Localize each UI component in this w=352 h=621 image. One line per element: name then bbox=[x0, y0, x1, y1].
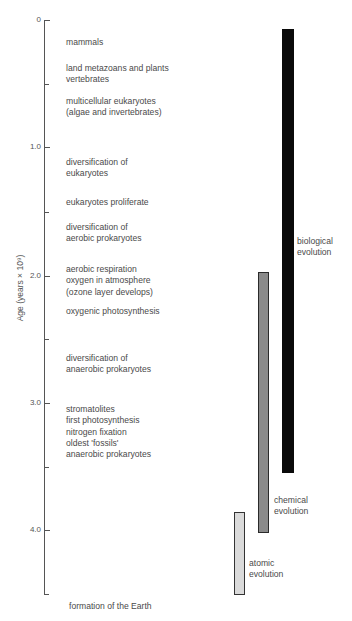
event-label: oxygenic photosynthesis bbox=[66, 306, 160, 317]
biological-evolution-bar bbox=[282, 29, 294, 473]
atomic-evolution-bar bbox=[234, 512, 245, 595]
minor-tick bbox=[44, 467, 49, 468]
tick-4 bbox=[44, 530, 50, 531]
tick-label-1: 1.0 bbox=[11, 142, 41, 151]
atomic-evolution-label: atomic evolution bbox=[249, 558, 283, 581]
y-axis-label: Age (years × 10⁹) bbox=[15, 238, 25, 338]
tick-2 bbox=[44, 276, 50, 277]
y-axis-line bbox=[44, 20, 45, 594]
event-label: aerobic respiration oxygen in atmosphere… bbox=[66, 264, 153, 298]
tick-label-4: 4.0 bbox=[11, 525, 41, 534]
event-label: mammals bbox=[66, 37, 103, 48]
tick-label-0: 0 bbox=[11, 15, 41, 24]
tick-1 bbox=[44, 147, 50, 148]
minor-tick bbox=[44, 212, 49, 213]
event-label: diversification of eukaryotes bbox=[66, 157, 128, 180]
event-label: diversification of anaerobic prokaryotes bbox=[66, 353, 151, 376]
event-label: diversification of aerobic prokaryotes bbox=[66, 222, 141, 245]
biological-evolution-label: biological evolution bbox=[297, 236, 333, 259]
event-label: multicellular eukaryotes (algae and inve… bbox=[66, 96, 162, 119]
event-label: land metazoans and plants vertebrates bbox=[66, 63, 169, 86]
tick-0 bbox=[44, 20, 50, 21]
minor-tick bbox=[44, 594, 49, 595]
tick-3 bbox=[44, 403, 50, 404]
chemical-evolution-label: chemical evolution bbox=[274, 495, 308, 518]
minor-tick bbox=[44, 84, 49, 85]
event-label: eukaryotes proliferate bbox=[66, 197, 149, 208]
event-label: stromatolites first photosynthesis nitro… bbox=[66, 404, 151, 460]
tick-label-3: 3.0 bbox=[11, 398, 41, 407]
event-label: formation of the Earth bbox=[69, 601, 152, 612]
chemical-evolution-bar bbox=[258, 272, 269, 533]
minor-tick bbox=[44, 339, 49, 340]
